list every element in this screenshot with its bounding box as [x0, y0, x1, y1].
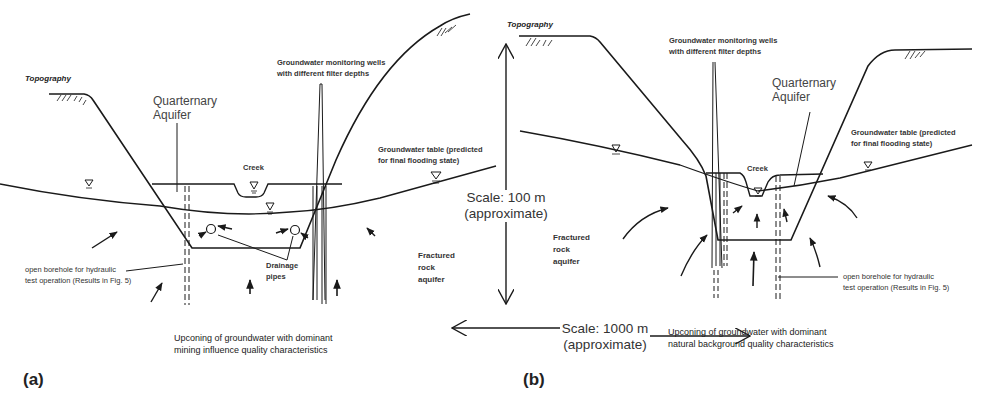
- panel-b-monitoring-wells-label: Groundwater monitoring wells with differ…: [669, 36, 777, 57]
- panel-a-topography-label: Topography: [25, 74, 71, 83]
- vertical-scale-label: Scale: 100 m (approximate): [458, 190, 554, 222]
- panel-b-groundwater-table-label: Groundwater table (predicted for final f…: [851, 128, 956, 149]
- panel-b-upconing-label: Upconing of groundwater with dominant na…: [668, 326, 834, 350]
- panel-a-drainage-pipes-label: Drainage pipes: [266, 261, 298, 282]
- panel-b-topography-label: Topography: [507, 20, 553, 29]
- panel-a-groundwater-table-label: Groundwater table (predicted for final f…: [378, 145, 483, 166]
- panel-b-fractured-rock-label: Fractured rock aquifer: [553, 232, 590, 268]
- panel-a-creek-label: Creek: [243, 163, 264, 174]
- panel-b-quaternary-aquifer-label: Quarternary Aquifer: [772, 76, 836, 104]
- panel-a-upconing-label: Upconing of groundwater with dominant mi…: [174, 332, 333, 356]
- panel-a-quaternary-aquifer-label: Quarternary Aquifer: [153, 94, 217, 122]
- panel-b-borehole-label: open borehole for hydraulic test operati…: [843, 272, 949, 293]
- panel-a-label: (a): [23, 370, 44, 390]
- panel-b-creek-label: Creek: [747, 164, 768, 175]
- panel-b-label: (b): [523, 370, 545, 390]
- panel-a-monitoring-wells-label: Groundwater monitoring wells with differ…: [277, 58, 385, 79]
- panel-a-fractured-rock-label: Fractured rock aquifer: [418, 250, 455, 286]
- horizontal-scale-label: Scale: 1000 m (approximate): [560, 321, 650, 353]
- panel-a-borehole-label: open borehole for hydraulic test operati…: [25, 265, 131, 286]
